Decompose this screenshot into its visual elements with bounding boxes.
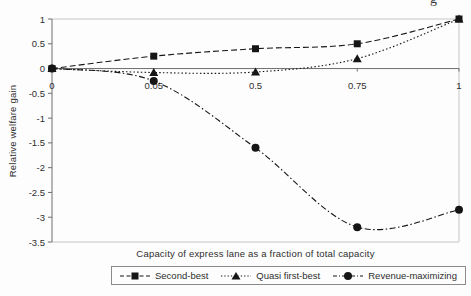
legend-item-circle: Revenue-maximizing <box>333 270 457 281</box>
y-tick-label: -0.5 <box>29 88 45 99</box>
data-point-marker-square <box>49 65 56 72</box>
data-point-marker-square <box>354 40 361 47</box>
data-point-marker-square <box>456 16 463 23</box>
y-tick-label: -1 <box>37 113 45 124</box>
x-tick-label: 0 <box>49 80 54 91</box>
legend-marker-triangle-icon <box>221 271 251 281</box>
y-axis-title: Relative welfare gain <box>7 51 21 211</box>
y-tick-label: -2 <box>37 162 45 173</box>
y-tick-label: -2.5 <box>29 187 45 198</box>
y-tick-label: -1.5 <box>29 137 45 148</box>
data-point-marker-circle <box>455 206 463 214</box>
legend-item-square: Second-best <box>120 270 208 281</box>
x-tick-label: 0.75 <box>348 80 367 91</box>
legend-label: Quasi first-best <box>256 270 320 281</box>
page-container: 10.50-0.5-1-1.5-2-2.5-3-3.500.050.50.751… <box>0 0 471 296</box>
data-point-marker-square <box>150 53 157 60</box>
legend-marker-square-icon <box>120 271 150 281</box>
legend-label: Second-best <box>155 270 208 281</box>
data-point-marker-triangle <box>149 68 158 76</box>
y-tick-label: -3.5 <box>29 237 45 248</box>
legend-item-triangle: Quasi first-best <box>221 270 320 281</box>
data-point-marker-square <box>252 45 259 52</box>
x-axis-title: Capacity of express lane as a fraction o… <box>52 248 459 259</box>
y-tick-label: -3 <box>37 212 45 223</box>
legend-marker-circle-icon <box>333 271 363 281</box>
y-tick-label: 0 <box>40 63 45 74</box>
legend-label: Revenue-maximizing <box>368 270 457 281</box>
x-tick-label: 0.5 <box>249 80 262 91</box>
data-point-marker-triangle <box>353 54 362 62</box>
data-point-marker-circle <box>252 144 260 152</box>
cropped-text-fragment: g <box>430 0 437 7</box>
data-point-marker-circle <box>353 223 361 231</box>
data-point-marker-circle <box>150 77 158 85</box>
x-tick-label: 1 <box>456 80 461 91</box>
y-tick-label: 1 <box>40 14 45 25</box>
chart-legend: Second-bestQuasi first-bestRevenue-maxim… <box>111 266 466 285</box>
y-tick-label: 0.5 <box>32 38 45 49</box>
series-line-square <box>52 19 459 69</box>
